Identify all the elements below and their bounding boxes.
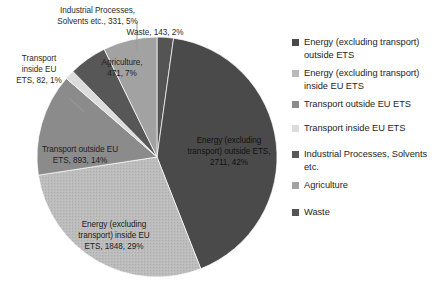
pie-chart-figure: Industrial Processes, Solvents etc., 331…	[0, 0, 438, 289]
legend-item-label: Waste	[304, 206, 330, 219]
slice-label-energy-inside-eu-ets: Energy (excluding transport) inside EU E…	[60, 220, 168, 252]
legend-swatch-icon	[292, 39, 299, 46]
slice-label-agriculture: Agriculture, 471, 7%	[85, 58, 159, 80]
legend-item[interactable]: Transport outside EU ETS	[292, 98, 438, 111]
legend-item[interactable]: Industrial Processes, Solvents etc.	[292, 148, 438, 174]
slice-label-energy-outside-ets: Energy (excluding transport) outside ETS…	[175, 136, 283, 168]
slice-label-transport-outside-eu-ets: Transport outside EU ETS, 893, 14%	[28, 145, 132, 167]
pie-plot-area: Industrial Processes, Solvents etc., 331…	[0, 0, 290, 289]
legend-item-label: Energy (excluding transport) inside EU E…	[304, 67, 438, 93]
legend-item-label: Transport outside EU ETS	[304, 98, 411, 111]
legend-item-label: Transport inside EU ETS	[304, 122, 405, 135]
legend-item-label: Industrial Processes, Solvents etc.	[304, 148, 438, 174]
callout-waste: Waste, 143, 2%	[111, 28, 199, 39]
legend-swatch-icon	[292, 70, 299, 77]
legend-item[interactable]: Energy (excluding transport) outside ETS	[292, 36, 438, 62]
legend-item[interactable]: Energy (excluding transport) inside EU E…	[292, 67, 438, 93]
legend-item-label: Energy (excluding transport) outside ETS	[304, 36, 438, 62]
legend-swatch-icon	[292, 182, 299, 189]
callout-industrial-processes: Industrial Processes, Solvents etc., 331…	[30, 6, 165, 28]
legend-item[interactable]: Transport inside EU ETS	[292, 122, 438, 135]
legend-item[interactable]: Agriculture	[292, 179, 438, 192]
legend-swatch-icon	[292, 209, 299, 216]
callout-transport-inside-eu-ets: Transport inside EU ETS, 82, 1%	[6, 54, 72, 86]
legend-swatch-icon	[292, 151, 299, 158]
legend-swatch-icon	[292, 101, 299, 108]
legend-item[interactable]: Waste	[292, 206, 438, 219]
legend-item-label: Agriculture	[304, 179, 348, 192]
legend-swatch-icon	[292, 125, 299, 132]
